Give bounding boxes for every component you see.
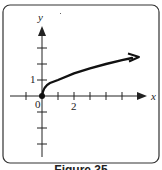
x-axis xyxy=(10,92,147,100)
y-axis-arrow-icon xyxy=(38,26,46,36)
figure-caption: Figure 35 xyxy=(0,163,162,170)
stray-mark xyxy=(60,13,61,14)
x-tick-label-2: 2 xyxy=(71,101,77,112)
x-axis-arrow-icon xyxy=(137,92,147,100)
graph-figure xyxy=(0,0,162,170)
origin-label: 0 xyxy=(35,99,41,110)
graph-border xyxy=(3,5,159,163)
x-axis-label: x xyxy=(151,91,156,102)
y-tick-label-1: 1 xyxy=(30,74,36,85)
sqrt-curve xyxy=(42,58,132,96)
y-axis-label: y xyxy=(38,12,43,23)
